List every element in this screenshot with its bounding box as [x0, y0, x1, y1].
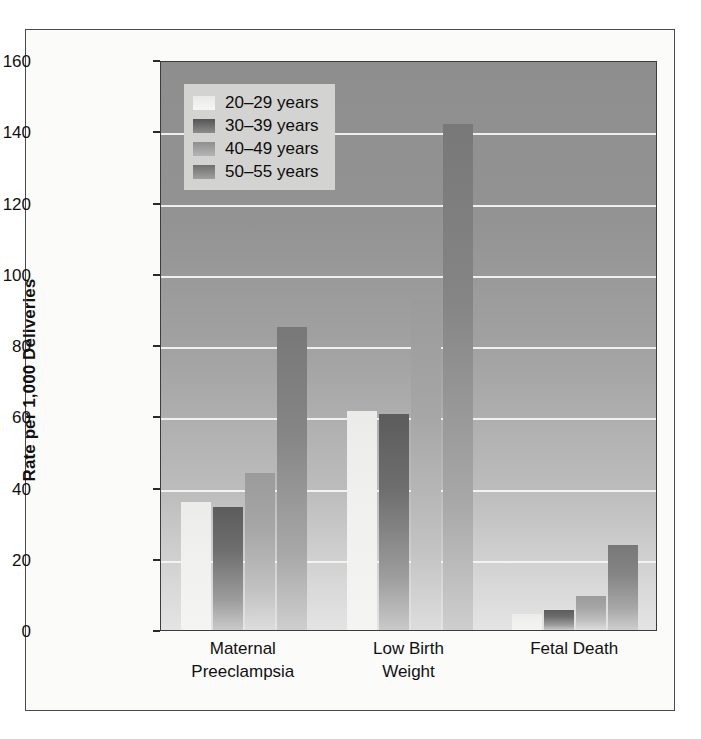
bar	[181, 502, 211, 630]
y-axis-tick-mark	[153, 274, 160, 276]
y-axis-tick-label: 20	[0, 551, 31, 571]
bar	[443, 124, 473, 630]
legend-item: 20–29 years	[193, 91, 319, 114]
bar	[576, 596, 606, 630]
legend-item-label: 30–39 years	[225, 116, 319, 136]
legend-swatch-icon	[193, 165, 215, 179]
x-axis-category-line: Weight	[326, 660, 492, 683]
bar	[347, 411, 377, 630]
y-axis-tick-label: 100	[0, 266, 31, 286]
legend-item: 40–49 years	[193, 137, 319, 160]
x-axis-category-line: Low Birth	[326, 637, 492, 660]
legend-swatch-icon	[193, 142, 215, 156]
bar	[245, 473, 275, 630]
legend-swatch-icon	[193, 119, 215, 133]
y-axis-tick-label: 140	[0, 123, 31, 143]
bar	[512, 614, 542, 630]
x-axis-category-line: Preeclampsia	[160, 660, 326, 683]
bar	[213, 507, 243, 630]
y-axis-tick-label: 120	[0, 195, 31, 215]
legend-item-label: 50–55 years	[225, 162, 319, 182]
y-axis-tick-label: 80	[0, 337, 31, 357]
x-axis-category-label: MaternalPreeclampsia	[160, 637, 326, 683]
bar	[608, 545, 638, 631]
y-axis-tick-mark	[153, 345, 160, 347]
gridline	[161, 418, 656, 420]
y-axis-tick-label: 40	[0, 480, 31, 500]
bar	[544, 610, 574, 630]
x-axis-category-line: Maternal	[160, 637, 326, 660]
figure-frame: Rate per 1,000 Deliveries 02040608010012…	[25, 29, 675, 711]
bar	[411, 300, 441, 630]
y-axis-tick-label: 0	[0, 622, 31, 642]
y-axis-tick-mark	[153, 416, 160, 418]
gridline	[161, 205, 656, 207]
y-axis-tick-mark	[153, 60, 160, 62]
legend-item-label: 20–29 years	[225, 93, 319, 113]
legend-item: 30–39 years	[193, 114, 319, 137]
y-axis-tick-mark	[153, 559, 160, 561]
y-axis-tick-mark	[153, 203, 160, 205]
legend: 20–29 years30–39 years40–49 years50–55 y…	[184, 84, 335, 190]
legend-swatch-icon	[193, 96, 215, 110]
x-axis-category-label: Fetal Death	[491, 637, 657, 660]
gridline	[161, 347, 656, 349]
gridline	[161, 490, 656, 492]
y-axis-tick-label: 160	[0, 52, 31, 72]
bar	[379, 414, 409, 630]
y-axis-tick-mark	[153, 488, 160, 490]
plot-area: 20–29 years30–39 years40–49 years50–55 y…	[160, 61, 657, 631]
gridline	[161, 276, 656, 278]
y-axis-tick-mark	[153, 630, 160, 632]
bar	[277, 327, 307, 630]
y-axis-tick-label: 60	[0, 408, 31, 428]
x-axis-category-label: Low BirthWeight	[326, 637, 492, 683]
y-axis-tick-mark	[153, 131, 160, 133]
legend-item: 50–55 years	[193, 160, 319, 183]
legend-item-label: 40–49 years	[225, 139, 319, 159]
x-axis-category-line: Fetal Death	[491, 637, 657, 660]
